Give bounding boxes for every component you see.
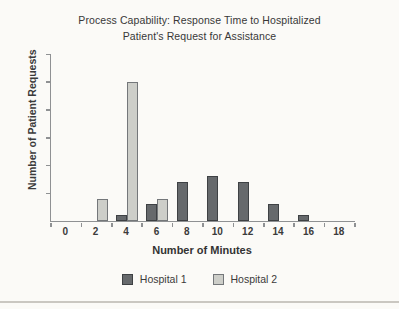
category-group-14 (264, 54, 294, 221)
x-tick-label-6: 6 (141, 226, 171, 237)
category-group-8 (173, 54, 203, 221)
category-group-4 (112, 54, 142, 221)
x-axis-title: Number of Minutes (50, 244, 354, 256)
bar-hospital-1-12min (238, 182, 249, 221)
category-group-16 (294, 54, 324, 221)
x-tick-label-10: 10 (202, 226, 232, 237)
category-group-6 (142, 54, 172, 221)
legend-item-hospital-2: Hospital 2 (213, 273, 278, 285)
legend-swatch-icon (122, 274, 133, 285)
bottom-rule (0, 301, 399, 303)
x-axis-tick-labels: 024681012141618 (50, 226, 354, 237)
category-group-0 (51, 54, 81, 221)
legend-swatch-icon (213, 274, 224, 285)
legend: Hospital 1Hospital 2 (0, 273, 399, 285)
bar-hospital-1-10min (207, 176, 218, 221)
bar-hospital-2-4min (127, 82, 138, 221)
x-tick-label-0: 0 (50, 226, 80, 237)
bar-hospital-2-2min (97, 199, 108, 221)
x-tick-label-12: 12 (232, 226, 262, 237)
chart-title: Process Capability: Response Time to Hos… (0, 13, 399, 44)
legend-item-hospital-1: Hospital 1 (122, 273, 187, 285)
bar-hospital-1-14min (268, 204, 279, 221)
chart-title-line2: Patient's Request for Assistance (0, 29, 399, 45)
bar-hospital-1-6min (146, 204, 157, 221)
x-axis-tick (354, 223, 356, 227)
figure-page: Process Capability: Response Time to Hos… (0, 0, 399, 309)
category-group-12 (233, 54, 263, 221)
x-tick-label-18: 18 (324, 226, 354, 237)
category-group-10 (203, 54, 233, 221)
bar-hospital-2-6min (157, 199, 168, 221)
x-tick-label-4: 4 (111, 226, 141, 237)
bar-hospital-1-4min (116, 215, 127, 221)
bar-hospital-1-8min (177, 182, 188, 221)
x-tick-label-2: 2 (80, 226, 110, 237)
y-axis-title: Number of Patient Requests (26, 52, 40, 190)
legend-label: Hospital 2 (231, 273, 278, 285)
plot-area (50, 54, 355, 222)
bar-hospital-1-16min (298, 215, 309, 221)
x-tick-label-8: 8 (172, 226, 202, 237)
category-group-18 (325, 54, 355, 221)
x-tick-label-16: 16 (293, 226, 323, 237)
x-tick-label-14: 14 (263, 226, 293, 237)
legend-label: Hospital 1 (140, 273, 187, 285)
bar-series-area (51, 54, 355, 221)
category-group-2 (81, 54, 111, 221)
chart-title-line1: Process Capability: Response Time to Hos… (0, 13, 399, 29)
